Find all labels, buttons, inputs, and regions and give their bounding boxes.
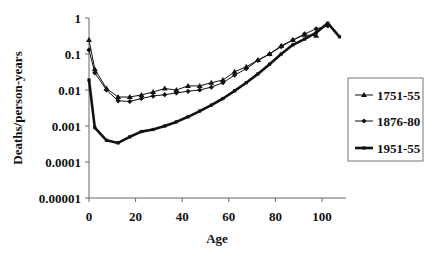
square-marker: [105, 139, 108, 142]
square-marker: [198, 109, 201, 112]
y-tick-label: 0.01: [58, 83, 81, 98]
square-marker: [245, 81, 248, 84]
y-tick-label: 1: [75, 11, 82, 26]
diamond-marker: [127, 99, 132, 104]
square-marker: [338, 35, 341, 38]
square-marker: [362, 146, 365, 149]
x-tick-label: 80: [269, 209, 282, 224]
diamond-marker: [162, 92, 167, 97]
series-layer: [86, 22, 341, 145]
square-marker: [268, 63, 271, 66]
square-marker: [326, 22, 329, 25]
x-tick-label: 100: [312, 209, 332, 224]
diamond-marker: [209, 85, 214, 90]
square-marker: [221, 97, 224, 100]
legend: 1751-551876-801951-55: [348, 78, 423, 161]
diamond-marker: [150, 93, 155, 98]
series-line: [89, 23, 340, 143]
legend-label: 1876-80: [377, 114, 420, 129]
x-tick-label: 20: [129, 209, 142, 224]
square-marker: [303, 37, 306, 40]
square-marker: [233, 89, 236, 92]
series-1876-80: [86, 23, 330, 104]
y-tick-label: 0.1: [65, 47, 81, 62]
square-marker: [256, 72, 259, 75]
square-marker: [163, 124, 166, 127]
square-marker: [128, 135, 131, 138]
x-ticks: 020406080100: [86, 198, 332, 224]
mortality-chart: 10.10.010.0010.00010.00001 020406080100 …: [0, 0, 432, 255]
square-marker: [93, 126, 96, 129]
square-marker: [87, 78, 90, 81]
y-tick-label: 0.001: [52, 119, 81, 134]
square-marker: [291, 43, 294, 46]
square-marker: [186, 115, 189, 118]
triangle-marker: [86, 37, 92, 42]
triangle-marker: [185, 83, 191, 88]
series-1951-55: [87, 22, 341, 145]
square-marker: [151, 128, 154, 131]
square-marker: [117, 141, 120, 144]
square-marker: [175, 120, 178, 123]
y-tick-label: 0.0001: [45, 155, 81, 170]
x-tick-label: 40: [176, 209, 189, 224]
diamond-marker: [197, 87, 202, 92]
y-ticks: 10.10.010.0010.00010.00001: [39, 11, 89, 206]
legend-label: 1751-55: [377, 88, 421, 103]
y-axis-title: Deaths/person-years: [10, 51, 25, 164]
x-axis-title: Age: [206, 231, 228, 246]
legend-label: 1951-55: [377, 141, 421, 156]
x-tick-label: 60: [222, 209, 235, 224]
series-line: [89, 26, 328, 102]
x-tick-label: 0: [86, 209, 93, 224]
square-marker: [140, 130, 143, 133]
square-marker: [280, 52, 283, 55]
square-marker: [210, 104, 213, 107]
diamond-marker: [185, 89, 190, 94]
square-marker: [315, 31, 318, 34]
triangle-marker: [162, 86, 168, 91]
y-tick-label: 0.00001: [39, 191, 81, 206]
